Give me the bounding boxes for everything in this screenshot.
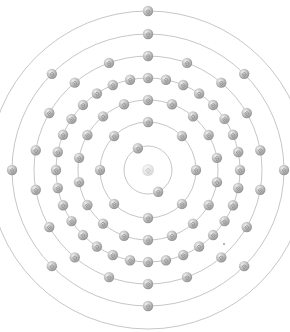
electron-sphere-icon [98,111,108,121]
electron-sphere-icon [92,88,102,98]
nucleus-icon [142,164,154,176]
electron-sphere-icon [66,216,76,226]
electron-sphere-icon [167,99,177,109]
electron-sphere-icon [178,250,188,260]
electron-sphere-icon [182,272,192,282]
electron-sphere-icon [191,165,201,175]
electron-sphere-icon [203,130,213,140]
electron-sphere-icon [182,58,192,68]
electron-sphere-icon [104,272,114,282]
electron-sphere-icon [143,257,153,267]
electron-sphere-icon [143,301,153,311]
electron-sphere-icon [70,77,80,87]
electron-group [7,6,289,311]
electron-sphere-icon [108,250,118,260]
electron-sphere-icon [212,153,222,163]
electron-sphere-icon [58,130,68,140]
electron-sphere-icon [133,143,143,153]
electron-sphere-icon [208,230,218,240]
electron-sphere-icon [143,279,153,289]
electron-sphere-icon [233,147,243,157]
electron-sphere-icon [108,80,118,90]
nucleus-swirl-icon [142,164,154,176]
electron-sphere-icon [74,153,84,163]
electron-sphere-icon [119,99,129,109]
electron-sphere-icon [188,111,198,121]
electron-sphere-icon [235,165,245,175]
electron-sphere-icon [242,222,252,232]
electron-sphere-icon [95,165,105,175]
electron-sphere-icon [53,183,63,193]
electron-sphere-icon [208,100,218,110]
electron-sphere-icon [82,130,92,140]
bohr-atom-diagram [0,0,290,332]
electron-sphere-icon [143,6,153,16]
electron-sphere-icon [70,252,80,262]
electron-sphere-icon [219,216,229,226]
electron-sphere-icon [194,88,204,98]
electron-sphere-icon [178,80,188,90]
electron-sphere-icon [228,130,238,140]
electron-sphere-icon [188,218,198,228]
electron-sphere-icon [255,185,265,195]
electron-sphere-icon [82,200,92,210]
electron-sphere-icon [44,108,54,118]
electron-sphere-icon [177,199,187,209]
electron-sphere-icon [177,131,187,141]
electron-sphere-icon [109,131,119,141]
electron-sphere-icon [98,218,108,228]
electron-sphere-icon [143,95,153,105]
electron-sphere-icon [143,213,153,223]
electron-sphere-icon [78,230,88,240]
electron-sphere-icon [161,75,171,85]
electron-sphere-icon [255,145,265,155]
electron-sphere-icon [279,165,289,175]
electron-sphere-icon [44,222,54,232]
electron-sphere-icon [53,147,63,157]
electron-sphere-icon [167,231,177,241]
electron-sphere-icon [143,235,153,245]
electron-sphere-icon [143,117,153,127]
electron-sphere-icon [212,177,222,187]
electron-sphere-icon [233,183,243,193]
electron-sphere-icon [125,75,135,85]
electron-sphere-icon [104,58,114,68]
electron-sphere-icon [219,114,229,124]
electron-sphere-icon [92,241,102,251]
electron-sphere-icon [239,261,249,271]
electron-sphere-icon [119,231,129,241]
electron-sphere-icon [66,114,76,124]
electron-sphere-icon [47,69,57,79]
electron-sphere-icon [78,100,88,110]
electron-sphere-icon [143,29,153,39]
electron-sphere-icon [58,200,68,210]
stray-dot [223,243,224,244]
electron-sphere-icon [125,255,135,265]
electron-sphere-icon [228,200,238,210]
electron-sphere-icon [109,199,119,209]
electron-sphere-icon [31,145,41,155]
electron-sphere-icon [51,165,61,175]
electron-sphere-icon [161,255,171,265]
electron-sphere-icon [216,252,226,262]
electron-sphere-icon [203,200,213,210]
electron-sphere-icon [194,241,204,251]
electron-sphere-icon [74,177,84,187]
electron-sphere-icon [153,187,163,197]
electron-sphere-icon [143,51,153,61]
electron-sphere-icon [143,73,153,83]
electron-sphere-icon [47,261,57,271]
electron-sphere-icon [7,165,17,175]
electron-sphere-icon [242,108,252,118]
electron-sphere-icon [31,185,41,195]
electron-sphere-icon [216,77,226,87]
electron-sphere-icon [239,69,249,79]
